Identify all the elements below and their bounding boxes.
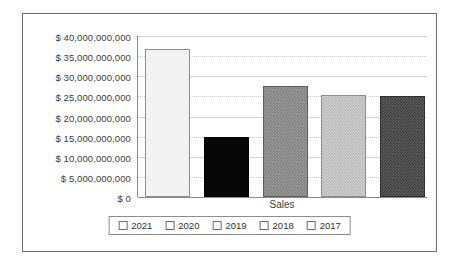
y-tick-label: $ 25,000,000,000 <box>55 92 131 103</box>
legend-item-2018[interactable]: 2018 <box>260 220 294 231</box>
legend-item-2019[interactable]: 2019 <box>212 220 246 231</box>
legend-label: 2021 <box>131 220 152 231</box>
legend-item-2017[interactable]: 2017 <box>307 220 341 231</box>
y-tick-label: $ 30,000,000,000 <box>55 72 131 83</box>
bar-2021[interactable] <box>145 49 190 197</box>
y-tick-label: $ 15,000,000,000 <box>55 132 131 143</box>
gridline-zero-baseline: $ 0 <box>138 197 427 198</box>
legend-label: 2017 <box>320 220 341 231</box>
plot-area: $ 40,000,000,000 $ 35,000,000,000 $ 30,0… <box>137 36 427 197</box>
x-axis-label: Sales <box>137 199 427 210</box>
bar-group <box>139 36 427 197</box>
y-tick-label: $ 35,000,000,000 <box>55 52 131 63</box>
y-tick-label: $ 5,000,000,000 <box>61 172 131 183</box>
chart-legend: 2021 2020 2019 2018 2017 <box>108 216 351 235</box>
bar-2018[interactable] <box>321 95 366 197</box>
y-tick-label: $ 40,000,000,000 <box>55 32 131 43</box>
legend-item-2021[interactable]: 2021 <box>118 220 152 231</box>
legend-swatch-icon <box>307 221 316 230</box>
chart-frame: $ 40,000,000,000 $ 35,000,000,000 $ 30,0… <box>22 13 437 252</box>
legend-swatch-icon <box>260 221 269 230</box>
legend-swatch-icon <box>118 221 127 230</box>
y-tick-label: $ 20,000,000,000 <box>55 112 131 123</box>
legend-label: 2020 <box>178 220 199 231</box>
legend-swatch-icon <box>212 221 221 230</box>
bar-2020[interactable] <box>204 137 249 197</box>
legend-item-2020[interactable]: 2020 <box>165 220 199 231</box>
legend-label: 2019 <box>225 220 246 231</box>
legend-swatch-icon <box>165 221 174 230</box>
bar-2019[interactable] <box>263 86 308 197</box>
bar-2017[interactable] <box>380 96 425 197</box>
legend-label: 2018 <box>273 220 294 231</box>
y-tick-label: $ 0 <box>117 193 131 204</box>
y-tick-label: $ 10,000,000,000 <box>55 152 131 163</box>
